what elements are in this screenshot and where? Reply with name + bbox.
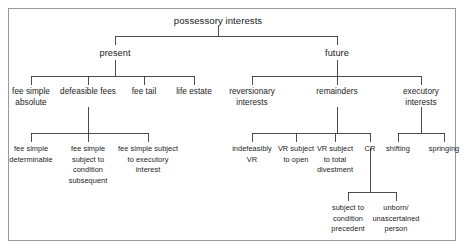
- node-executory-interests: executory interests: [396, 87, 446, 108]
- node-indefeasibly-vr: indefeasibly VR: [230, 144, 274, 165]
- node-subject-to-condition-precedent: subject to condition precedent: [325, 203, 371, 235]
- node-unborn-unascertained-person: unborn/ unascertained person: [372, 203, 420, 235]
- node-springing: springing: [425, 144, 463, 155]
- node-present: present: [70, 47, 160, 59]
- node-fee-simple-subject-to-condition-subsequent: fee simple subject to condition subseque…: [63, 144, 113, 186]
- node-fee-tail: fee tail: [121, 87, 167, 98]
- node-vr-subject-to-open: VR subject to open: [277, 144, 315, 165]
- node-future: future: [292, 47, 382, 59]
- node-defeasible-fees: defeasible fees: [60, 87, 116, 98]
- node-remainders: remainders: [302, 87, 372, 98]
- node-life-estate: life estate: [166, 87, 222, 98]
- node-fee-simple-subject-to-executory-interest: fee simple subject to executory interest: [117, 144, 179, 176]
- node-fee-simple-determinable: fee simple determinable: [3, 144, 59, 165]
- node-possessory-interests: possessory interests: [148, 15, 288, 27]
- node-vr-subject-to-total-divestment: VR subject to total divestment: [315, 144, 355, 176]
- node-shifting: shifting: [381, 144, 415, 155]
- diagram-page: possessory interests present future fee …: [0, 0, 466, 251]
- node-reversionary-interests: reversionary interests: [223, 87, 281, 108]
- node-cr: CR: [359, 144, 381, 155]
- node-fee-simple-absolute: fee simple absolute: [3, 87, 59, 108]
